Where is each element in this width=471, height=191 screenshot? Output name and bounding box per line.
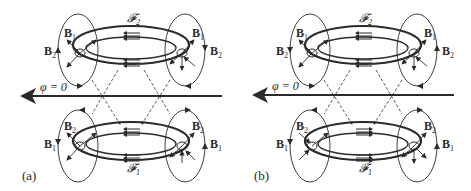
flux-torus-diagram: 𝓕2 B1 B2 B1 B2 φ = 0 bbox=[0, 0, 471, 191]
label-b1-bottom-right: B1 bbox=[210, 137, 222, 153]
flux-label-f1: 𝓕1 bbox=[127, 161, 140, 177]
label-b2-bottom-left: B2 bbox=[64, 119, 76, 135]
label-b2-bottom-right: B2 bbox=[192, 119, 204, 135]
label-b1-bottom-right-b: B1 bbox=[442, 137, 454, 153]
panel-a: 𝓕2 B1 B2 B1 B2 φ = 0 bbox=[22, 11, 222, 183]
torus-inner-edge bbox=[86, 37, 176, 59]
dashed-connectors-b bbox=[324, 70, 402, 124]
label-b2-top-right: B2 bbox=[210, 44, 222, 60]
label-b2-top-left-b: B2 bbox=[276, 44, 288, 60]
flux-label-f2: 𝓕2 bbox=[127, 11, 140, 27]
label-b1-top-left: B1 bbox=[64, 26, 76, 42]
flux-label-f1-b: 𝓕1 bbox=[359, 161, 372, 177]
panel-label-b: (b) bbox=[254, 168, 269, 183]
flux-label-f2-b: 𝓕2 bbox=[359, 11, 372, 27]
flux-arrows-top bbox=[124, 33, 140, 66]
label-b1-top-right-b: B1 bbox=[424, 26, 436, 42]
label-b1-bottom-left: B1 bbox=[44, 137, 56, 153]
label-b2-top-right-b: B2 bbox=[442, 44, 454, 60]
label-b1-top-right: B1 bbox=[192, 26, 204, 42]
axis-label-phi-b: φ = 0 bbox=[272, 79, 299, 93]
left-field-loop bbox=[58, 14, 98, 86]
label-b2-bottom-left-b: B2 bbox=[296, 119, 308, 135]
axis-label-phi: φ = 0 bbox=[40, 80, 67, 94]
label-b1-bottom-left-b: B1 bbox=[276, 137, 288, 153]
label-b2-top-left: B2 bbox=[44, 44, 56, 60]
panel-label-a: (a) bbox=[22, 168, 36, 183]
panel-b: 𝓕2 B1 B2 B1 B2 φ = 0 bbox=[254, 11, 454, 183]
label-b1-top-left-b: B1 bbox=[296, 26, 308, 42]
label-b2-bottom-right-b: B2 bbox=[424, 119, 436, 135]
